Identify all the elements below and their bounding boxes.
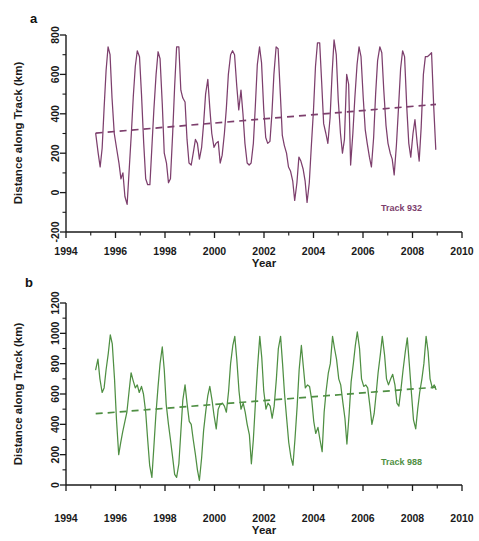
x-tick-label: 2010	[450, 245, 474, 257]
data-series-line	[96, 40, 436, 204]
x-tick-label: 1994	[54, 512, 78, 524]
x-tick-label: 1994	[54, 245, 78, 257]
series-label: Track 988	[381, 457, 422, 467]
panel-a: a -2000200400600800199419961998200020022…	[0, 0, 479, 271]
y-tick-label: 1000	[49, 321, 61, 345]
x-tick-label: 1998	[153, 245, 177, 257]
x-tick-label: 1998	[153, 512, 177, 524]
panel-b: b 02004006008001000120019941996199820002…	[0, 268, 479, 541]
y-tick-label: 600	[49, 65, 61, 83]
y-tick-label: 400	[49, 105, 61, 123]
y-axis-title: Distance along Track (km)	[12, 62, 24, 205]
y-tick-label: 800	[49, 26, 61, 44]
x-tick-label: 2006	[351, 512, 375, 524]
x-tick-label: 2010	[450, 512, 474, 524]
figure-root: a -2000200400600800199419961998200020022…	[0, 0, 479, 541]
y-tick-label: 200	[49, 144, 61, 162]
x-tick-label: 2008	[401, 245, 425, 257]
y-tick-label: 800	[49, 355, 61, 373]
y-tick-label: 600	[49, 385, 61, 403]
y-tick-label: 1200	[49, 291, 61, 315]
y-tick-label: -200	[49, 221, 61, 242]
x-tick-label: 2008	[401, 512, 425, 524]
x-tick-label: 2002	[252, 245, 276, 257]
x-tick-label: 2000	[203, 512, 227, 524]
y-tick-label: 0	[49, 190, 61, 196]
y-tick-label: 400	[49, 415, 61, 433]
x-tick-label: 2000	[203, 245, 227, 257]
panel-a-plot: -200020040060080019941996199820002002200…	[0, 0, 479, 271]
x-tick-label: 2006	[351, 245, 375, 257]
x-tick-label: 2002	[252, 512, 276, 524]
panel-b-plot: 0200400600800100012001994199619982000200…	[0, 268, 479, 541]
y-tick-label: 200	[49, 446, 61, 464]
x-axis-title: Year	[252, 524, 277, 536]
y-tick-label: 0	[49, 482, 61, 488]
series-label: Track 932	[381, 203, 422, 213]
y-axis-title: Distance along Track (km)	[12, 323, 24, 466]
data-layer	[96, 40, 436, 204]
x-tick-label: 2004	[302, 512, 326, 524]
x-tick-label: 1996	[104, 245, 128, 257]
x-tick-label: 2004	[302, 245, 326, 257]
x-tick-label: 1996	[104, 512, 128, 524]
